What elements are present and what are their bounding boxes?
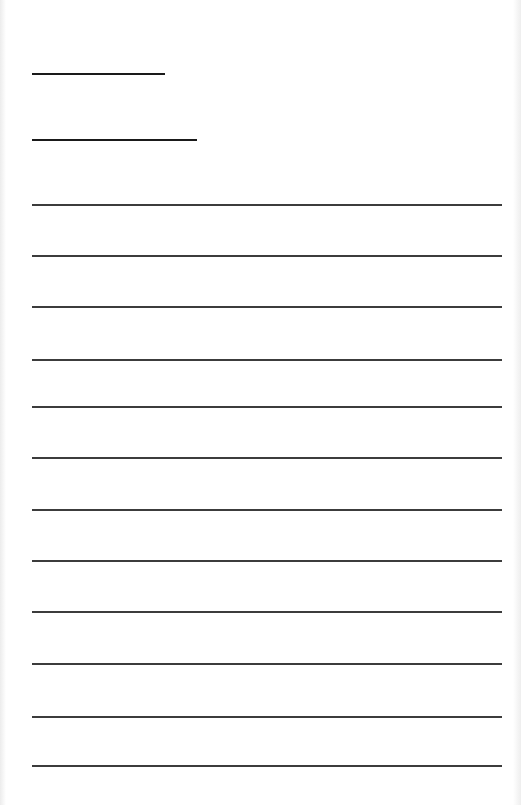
writing-line-2	[32, 255, 502, 257]
writing-line-6	[32, 457, 502, 459]
header-blank-line-2	[32, 139, 197, 141]
writing-line-4	[32, 359, 502, 361]
writing-line-3	[32, 306, 502, 308]
writing-line-10	[32, 663, 502, 665]
header-blank-line-1	[32, 73, 165, 75]
writing-line-8	[32, 560, 502, 562]
writing-line-7	[32, 509, 502, 511]
writing-line-12	[32, 765, 502, 767]
writing-line-11	[32, 716, 502, 718]
writing-line-5	[32, 406, 502, 408]
writing-line-9	[32, 611, 502, 613]
writing-line-1	[32, 204, 502, 206]
page-edge-shadow-left	[0, 0, 6, 805]
page-edge-shadow-right	[513, 0, 521, 805]
